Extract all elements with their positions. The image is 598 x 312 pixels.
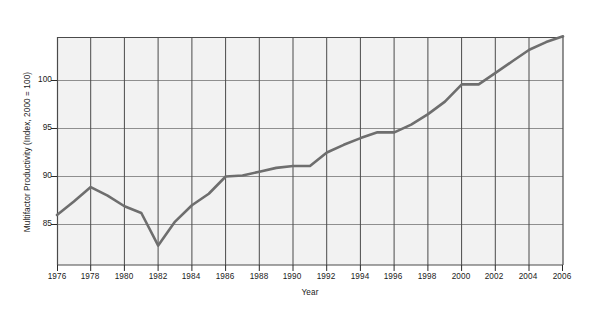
y-tick-label-100: 100 [30,75,52,85]
y-axis-title: Multifactor Productivity (Index, 2000 = … [20,38,34,266]
vertical-gridlines [91,37,529,265]
y-axis-title-text: Multifactor Productivity (Index, 2000 = … [23,72,32,232]
horizontal-gridlines [57,81,563,225]
plot-area [0,0,598,312]
x-tick-label-2006: 2006 [542,272,582,282]
x-axis-title: Year [280,288,340,297]
y-tick-marks [51,81,57,225]
chart-figure: Multifactor Productivity (Index, 2000 = … [0,0,598,312]
data-series-line [57,36,563,245]
y-tick-label-95: 95 [30,123,52,133]
x-tick-marks [58,265,563,271]
plot-background [57,37,563,265]
y-tick-label-90: 90 [30,171,52,181]
y-tick-label-85: 85 [30,219,52,229]
plot-border [57,37,563,265]
